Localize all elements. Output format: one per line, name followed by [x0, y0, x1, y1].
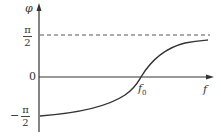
phase-curve	[40, 40, 208, 116]
x-axis-label: f	[203, 84, 207, 95]
x-axis-arrow-icon	[206, 75, 214, 80]
lower-sign: −	[10, 110, 19, 121]
lower-value-label: π 2	[21, 105, 30, 128]
crossing-subscript: 0	[142, 89, 146, 97]
crossing-label: f0	[138, 83, 147, 97]
lower-denominator: 2	[22, 118, 28, 128]
y-axis-arrow-icon	[37, 3, 42, 11]
upper-denominator: 2	[24, 38, 30, 48]
lower-numerator: π	[22, 105, 29, 115]
upper-numerator: π	[24, 25, 31, 35]
upper-asymptote-label: π 2	[23, 25, 32, 48]
y-axis-label: φ	[25, 3, 33, 14]
origin-label: 0	[29, 71, 36, 82]
